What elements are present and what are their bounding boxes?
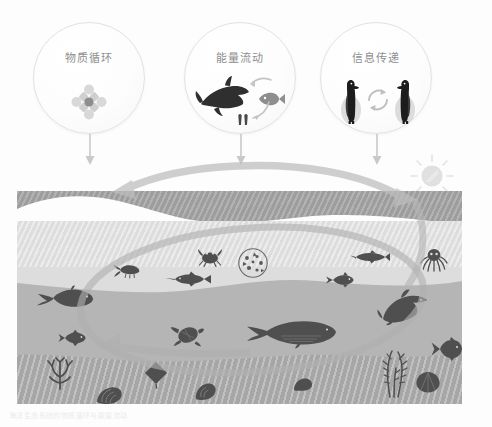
ecosystem-cycle-loop <box>0 0 492 427</box>
cycle-arrow-ellipse <box>75 216 428 384</box>
figure-caption: 海洋生态系统的物质循环与能量流动 <box>9 410 127 420</box>
cycle-arrow-upper <box>112 165 418 207</box>
cycle-arrow-lower-head <box>96 334 250 356</box>
infographic-canvas: 物质循环 能量流动 <box>0 0 492 427</box>
